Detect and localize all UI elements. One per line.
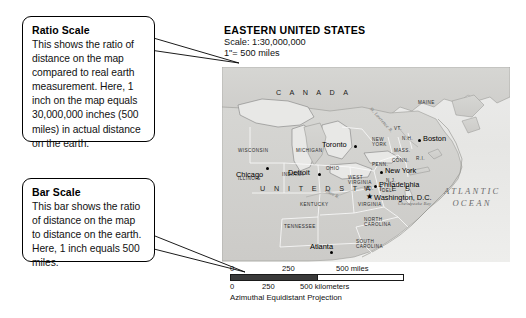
ratio-scale-callout: Ratio Scale This shows the ratio of dist… bbox=[22, 16, 155, 142]
ratio-scale-title: Ratio Scale bbox=[32, 24, 146, 37]
miles-tick-0: 0 bbox=[230, 264, 234, 273]
city-label-atlanta: Atlanta bbox=[310, 243, 333, 250]
miles-tick-labels: 0 250 500 miles bbox=[230, 264, 404, 273]
map-image: C A N A D A U N I T E D S T A T E S ATLA… bbox=[222, 67, 510, 262]
scale-bar-fill bbox=[231, 275, 317, 280]
state-label-wisconsin: WISCONSIN bbox=[238, 149, 269, 154]
miles-tick-250: 250 bbox=[282, 264, 295, 273]
city-label-washington-dc: Washington, D.C. bbox=[374, 194, 432, 201]
state-label-virginia: VIRGINIA bbox=[358, 203, 382, 208]
state-label-maine: MAINE bbox=[418, 101, 435, 106]
city-label-toronto: Toronto bbox=[322, 141, 347, 148]
bar-scale-callout: Bar Scale This bar shows the ratio of di… bbox=[22, 178, 155, 262]
state-label-north-carolina: NORTH CAROLINA bbox=[364, 217, 390, 228]
ocean-label: ATLANTIC OCEAN bbox=[444, 185, 500, 209]
state-label-rhode-island: R.I. bbox=[416, 157, 425, 162]
km-tick-0: 0 bbox=[230, 282, 234, 291]
state-label-tennessee: TENNESSEE bbox=[284, 225, 316, 230]
map-scale-ratio: Scale: 1:30,000,000 bbox=[224, 37, 365, 48]
state-label-new-york: NEW YORK bbox=[372, 137, 392, 148]
km-tick-500: 500 kilometers bbox=[300, 282, 349, 291]
map-title-block: EASTERN UNITED STATES Scale: 1:30,000,00… bbox=[224, 24, 365, 60]
state-label-kentucky: KENTUCKY bbox=[300, 203, 329, 208]
country-label-canada: C A N A D A bbox=[276, 89, 351, 96]
capital-star-icon: ★ bbox=[366, 193, 373, 201]
ratio-scale-body: This shows the ratio of distance on the … bbox=[32, 38, 146, 151]
state-label-michigan: MICHIGAN bbox=[296, 149, 323, 154]
state-label-connecticut: CONN. bbox=[392, 159, 409, 164]
state-label-west-virginia: WEST VIRGINIA bbox=[348, 175, 372, 186]
km-tick-250: 250 bbox=[262, 282, 275, 291]
state-label-vermont: VT. bbox=[394, 127, 402, 132]
projection-note: Azimuthal Equidistant Projection bbox=[230, 293, 404, 303]
figure-canvas: Ratio Scale This shows the ratio of dist… bbox=[0, 0, 526, 318]
state-label-new-hampshire: N.H. bbox=[402, 137, 413, 142]
miles-tick-500: 500 miles bbox=[336, 264, 369, 273]
map-geometry bbox=[222, 67, 510, 262]
city-label-philadelphia: Philadelphia bbox=[379, 181, 419, 188]
state-label-massachusetts: MASS. bbox=[394, 149, 411, 154]
scale-bar-graphic bbox=[230, 274, 404, 281]
map-title: EASTERN UNITED STATES bbox=[224, 24, 365, 37]
scale-bar-block: 0 250 500 miles 0 250 500 kilometers Azi… bbox=[230, 264, 404, 303]
state-label-south-carolina: SOUTH CAROLINA bbox=[356, 239, 382, 250]
state-label-ohio: OHIO bbox=[326, 167, 340, 172]
city-label-chicago: Chicago bbox=[236, 171, 263, 178]
scale-bar-midtick bbox=[317, 275, 318, 280]
map-scale-inch: 1"= 500 miles bbox=[224, 48, 365, 59]
city-label-detroit: Detroit bbox=[288, 169, 310, 176]
bar-scale-body: This bar shows the ratio of distance on … bbox=[32, 200, 146, 270]
kilometers-tick-labels: 0 250 500 kilometers bbox=[230, 282, 404, 291]
state-label-maryland: MD. bbox=[364, 187, 374, 192]
bar-scale-title: Bar Scale bbox=[32, 186, 146, 199]
city-label-boston: Boston bbox=[423, 135, 446, 142]
city-label-new-york: New York bbox=[385, 167, 416, 174]
